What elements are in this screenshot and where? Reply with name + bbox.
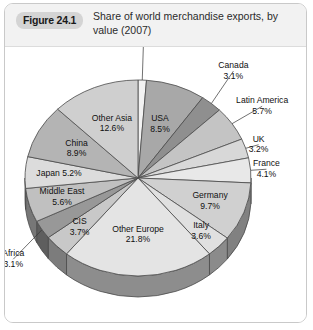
pie-label-africa: Africa3.1% <box>5 249 24 269</box>
figure-header: Figure 24.1 Share of world merchandise e… <box>5 4 306 47</box>
pie-label-canada: Canada3.1% <box>218 60 248 81</box>
pie-chart-container: Australasia1.2%USA8.5%Canada3.1%Latin Am… <box>5 47 306 323</box>
figure-title: Share of world merchandise exports, by v… <box>93 10 293 37</box>
pie-label-italy: Italy3.6% <box>191 221 211 242</box>
pie-label-usa: USA8.5% <box>150 114 170 135</box>
pie-label-japan: Japan 5.2% <box>36 168 82 178</box>
pie-label-uk: UK3.2% <box>249 134 269 155</box>
figure-number-badge: Figure 24.1 <box>16 12 83 29</box>
pie-chart-svg: Australasia1.2%USA8.5%Canada3.1%Latin Am… <box>5 47 306 323</box>
leader-line-australasia <box>142 47 144 80</box>
pie-label-france: France4.1% <box>253 159 280 180</box>
pie-label-cis: CIS3.7% <box>70 216 90 237</box>
pie-label-latin-america: Latin America5.7% <box>236 96 288 117</box>
pie-label-china: China8.9% <box>65 138 88 159</box>
figure-panel: Figure 24.1 Share of world merchandise e… <box>4 3 307 323</box>
